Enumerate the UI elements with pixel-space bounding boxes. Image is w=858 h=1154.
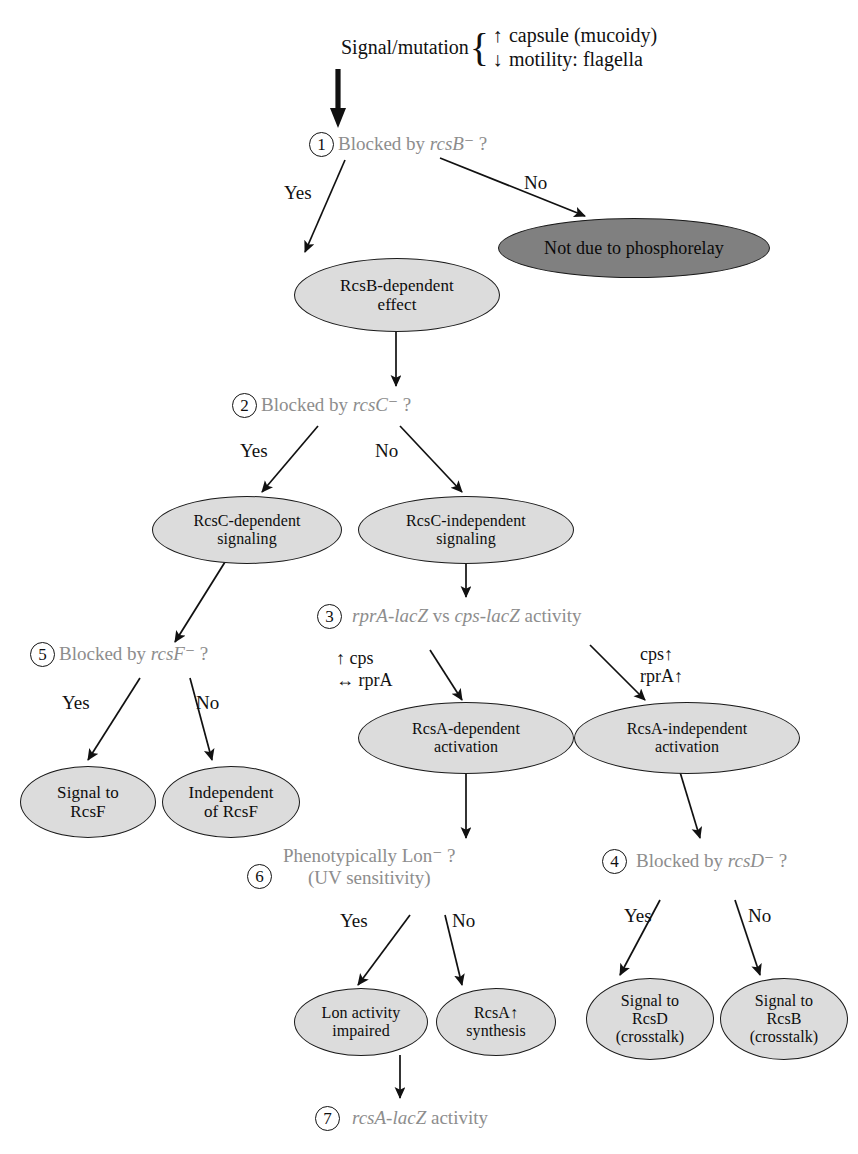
header-effect-text-2: motility: flagella	[509, 48, 643, 70]
node-rcsc-independent-signaling[interactable]: RcsC-independent signaling	[358, 496, 574, 564]
node-rcsc-independent-label: RcsC-independent signaling	[406, 512, 526, 548]
question-1-prefix: Blocked by	[338, 133, 430, 154]
question-7-gene: rcsA-lacZ	[352, 1107, 426, 1128]
down-arrow-icon: ↓	[491, 48, 504, 72]
node-rcsc-indep-line2: signaling	[436, 530, 496, 547]
edge-q1-no	[440, 158, 585, 216]
edge-label-q3-left-line2: ↔ rprA	[336, 670, 393, 692]
question-text-3: rprA-lacZ vs cps-lacZ activity	[352, 605, 582, 627]
node-indep-rcsf-line2: of RcsF	[204, 802, 258, 821]
node-rcsc-indep-line1: RcsC-independent	[406, 512, 526, 529]
edge-label-q1-no: No	[524, 172, 547, 194]
node-rcsa-synthesis[interactable]: RcsA↑ synthesis	[436, 988, 556, 1056]
edge-q2-no	[400, 426, 462, 492]
question-4-gene: rcsD	[728, 850, 764, 871]
edge-header-to-q1	[330, 69, 346, 128]
question-1-gene: rcsB	[430, 133, 464, 154]
edge-label-q3-right-line1: cps↑	[640, 644, 683, 666]
question-text-2: Blocked by rcsC⁻ ?	[261, 394, 411, 416]
node-indep-rcsf-line1: Independent	[188, 783, 273, 802]
edge-q5-no	[190, 678, 212, 760]
question-3-mid: vs	[428, 605, 454, 626]
edge-label-q3-left-line1: ↑ cps	[336, 648, 393, 670]
question-1-suffix: ⁻ ?	[464, 133, 487, 154]
question-text-4: Blocked by rcsD⁻ ?	[636, 850, 787, 872]
question-2-prefix: Blocked by	[261, 394, 353, 415]
node-signal-rcsb-label: Signal to RcsB (crosstalk)	[750, 992, 819, 1046]
header-signal-mutation: Signal/mutation { ↑ capsule (mucoidy) ↓ …	[341, 24, 657, 71]
edge-label-q6-no: No	[452, 910, 475, 932]
node-signal-rcsf-line2: RcsF	[70, 802, 105, 821]
edge-label-q5-yes: Yes	[62, 692, 90, 714]
question-number-2: 2	[232, 393, 257, 418]
edge-label-q4-no: No	[748, 905, 771, 927]
edge-label-q6-yes: Yes	[340, 910, 368, 932]
edge-q1-yes	[305, 160, 345, 252]
edge-label-q2-yes: Yes	[240, 440, 268, 462]
question-6-line2: (UV sensitivity)	[283, 867, 456, 889]
question-5-gene: rcsF	[151, 643, 185, 664]
node-rcsb-line2: effect	[378, 295, 417, 314]
flowchart-edges	[0, 0, 858, 1154]
node-rcsa-dep-line2: activation	[434, 738, 498, 755]
node-rcsb-line1: RcsB-dependent	[340, 276, 454, 295]
edge-rcsa-indep-to-q4	[680, 772, 700, 838]
edge-label-q2-no: No	[375, 440, 398, 462]
node-signal-to-rcsf-label: Signal to RcsF	[57, 783, 119, 821]
node-signal-rcsb-line1: Signal to	[755, 992, 813, 1009]
question-2-suffix: ⁻ ?	[388, 394, 411, 415]
node-signal-rcsb-line2: RcsB	[766, 1010, 801, 1027]
node-rcsa-independent-activation[interactable]: RcsA-independent activation	[574, 702, 800, 774]
node-not-due-to-phosphorelay[interactable]: Not due to phosphorelay	[498, 218, 770, 278]
up-arrow-icon: ↑	[491, 24, 504, 48]
node-signal-rcsf-line1: Signal to	[57, 783, 119, 802]
edge-q5-yes	[88, 678, 140, 760]
question-text-5: Blocked by rcsF⁻ ?	[59, 643, 208, 665]
node-independent-of-rcsf[interactable]: Independent of RcsF	[162, 766, 300, 838]
edge-label-q4-yes: Yes	[624, 905, 652, 927]
question-number-1: 1	[309, 132, 334, 157]
node-signal-rcsd-line2: RcsD	[632, 1010, 668, 1027]
question-4-prefix: Blocked by	[636, 850, 728, 871]
question-text-7: rcsA-lacZ activity	[352, 1107, 488, 1129]
edge-q2-yes	[262, 426, 318, 492]
question-number-5: 5	[30, 642, 55, 667]
question-number-7: 7	[315, 1106, 340, 1131]
question-number-4: 4	[602, 849, 627, 874]
question-number-6: 6	[247, 864, 272, 889]
edge-rcsc-dep-to-q5	[175, 562, 225, 642]
node-rcsa-indep-line1: RcsA-independent	[627, 720, 748, 737]
node-rcsb-dependent-effect[interactable]: RcsB-dependent effect	[294, 258, 500, 332]
node-signal-rcsd-line3: (crosstalk)	[616, 1028, 685, 1045]
node-signal-to-rcsb-crosstalk[interactable]: Signal to RcsB (crosstalk)	[720, 978, 848, 1060]
question-7-suffix: activity	[426, 1107, 488, 1128]
header-effect-line-1: ↑ capsule (mucoidy)	[491, 24, 657, 48]
question-5-prefix: Blocked by	[59, 643, 151, 664]
node-rcsc-dep-line1: RcsC-dependent	[193, 512, 300, 529]
node-rcsa-dependent-activation[interactable]: RcsA-dependent activation	[358, 702, 574, 774]
node-not-due-to-phosphorelay-label: Not due to phosphorelay	[544, 238, 724, 258]
node-rcsa-independent-label: RcsA-independent activation	[627, 720, 748, 756]
edge-label-q3-right-line2: rprA↑	[640, 666, 683, 688]
flowchart-canvas: Signal/mutation { ↑ capsule (mucoidy) ↓ …	[0, 0, 858, 1154]
header-effect-text-1: capsule (mucoidy)	[509, 24, 657, 46]
node-signal-rcsb-line3: (crosstalk)	[750, 1028, 819, 1045]
node-rcsc-dependent-signaling[interactable]: RcsC-dependent signaling	[152, 496, 342, 564]
question-text-6: Phenotypically Lon⁻ ? (UV sensitivity)	[283, 845, 456, 890]
question-3-gene-b: cps-lacZ	[454, 605, 519, 626]
edge-label-q5-no: No	[196, 692, 219, 714]
edge-label-q3-right: cps↑ rprA↑	[640, 644, 683, 687]
question-text-1: Blocked by rcsB⁻ ?	[338, 133, 487, 155]
node-rcsa-indep-line2: activation	[655, 738, 719, 755]
question-4-suffix: ⁻ ?	[764, 850, 787, 871]
node-independent-of-rcsf-label: Independent of RcsF	[188, 783, 273, 821]
node-signal-to-rcsf[interactable]: Signal to RcsF	[20, 766, 156, 838]
edge-q3-right	[590, 645, 645, 700]
node-signal-rcsd-line1: Signal to	[621, 992, 679, 1009]
header-lead-label: Signal/mutation	[341, 36, 469, 59]
node-rcsa-dep-line1: RcsA-dependent	[412, 720, 520, 737]
node-signal-to-rcsd-crosstalk[interactable]: Signal to RcsD (crosstalk)	[586, 978, 714, 1060]
node-lon-activity-impaired[interactable]: Lon activity impaired	[294, 988, 428, 1056]
node-rcsc-dep-line2: signaling	[217, 530, 277, 547]
question-number-3: 3	[317, 604, 342, 629]
